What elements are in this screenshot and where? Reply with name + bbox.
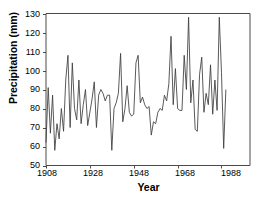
plot-area: [0, 0, 265, 200]
precipitation-time-series-chart: Precipitation (mm) 130 120 110 100 90 80…: [0, 0, 265, 200]
precipitation-line-series: [46, 17, 226, 150]
axis-frame: [46, 14, 250, 166]
